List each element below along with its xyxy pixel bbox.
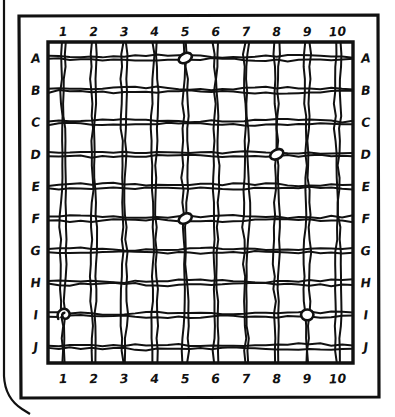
row-label-left-D: D [30, 147, 41, 163]
row-label-left-B: B [30, 82, 41, 98]
column-label-top-10: 10 [328, 23, 347, 39]
column-label-bottom-7: 7 [241, 371, 251, 386]
row-label-left-A: A [29, 50, 41, 66]
row-label-right-B: B [361, 82, 371, 97]
row-label-left-H: H [30, 275, 42, 291]
row-label-right-C: C [361, 114, 372, 130]
column-label-bottom-5: 5 [180, 371, 190, 386]
column-label-top-2: 2 [89, 24, 98, 39]
column-label-top-7: 7 [241, 24, 251, 40]
row-label-right-F: F [361, 211, 371, 226]
column-label-top-1: 1 [58, 24, 68, 40]
column-label-bottom-1: 1 [58, 371, 67, 386]
row-label-left-E: E [31, 179, 41, 195]
row-label-left-G: G [30, 243, 41, 259]
peg-marker-i9[interactable] [301, 309, 313, 320]
column-label-top-6: 6 [211, 24, 221, 39]
column-label-bottom-8: 8 [272, 371, 282, 386]
column-label-bottom-6: 6 [211, 371, 221, 387]
column-label-top-8: 8 [272, 24, 282, 39]
row-label-right-A: A [360, 50, 371, 66]
row-label-right-D: D [360, 147, 371, 163]
peg-marker-i1[interactable] [58, 309, 70, 319]
column-label-bottom-2: 2 [89, 371, 98, 386]
column-label-bottom-3: 3 [119, 371, 129, 387]
column-label-bottom-4: 4 [149, 371, 159, 386]
board-canvas: 12345678910 12345678910 ABCDEFGHIJ ABCDE… [0, 0, 395, 417]
column-label-top-4: 4 [149, 24, 160, 40]
column-label-top-9: 9 [302, 24, 312, 39]
column-label-top-3: 3 [119, 24, 128, 39]
column-label-bottom-10: 10 [328, 371, 346, 387]
row-label-right-G: G [360, 243, 371, 259]
row-label-left-F: F [31, 211, 41, 227]
game-board: 12345678910 12345678910 ABCDEFGHIJ ABCDE… [0, 0, 395, 417]
column-label-top-5: 5 [180, 24, 190, 39]
column-label-bottom-9: 9 [302, 371, 312, 387]
row-label-right-H: H [360, 275, 372, 291]
row-label-right-E: E [361, 179, 371, 194]
